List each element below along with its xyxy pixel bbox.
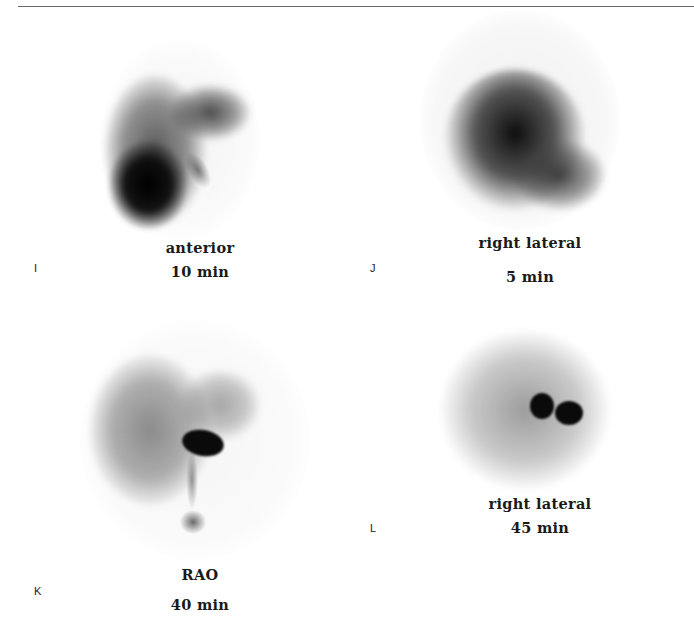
panel-letter-i: I [34,262,37,274]
panel-k: RAO 40 min K [0,300,340,624]
panel-letter-k: K [34,585,41,597]
page-header-rule [18,6,694,7]
caption-rao: RAO 40 min [140,560,260,620]
panel-letter-l: L [370,522,376,534]
caption-time: 40 min [140,590,260,620]
panel-letter-j: J [370,262,376,274]
caption-anterior: anterior 10 min [140,236,260,284]
panel-i: anterior 10 min I [0,20,340,290]
panel-l: right lateral 45 min L [340,300,694,560]
caption-view: right lateral [470,492,610,516]
caption-right-lateral-45: right lateral 45 min [470,492,610,540]
panel-j: right lateral 5 min J [340,20,694,290]
caption-time: 45 min [470,516,610,540]
caption-view: anterior [140,236,260,260]
caption-view: right lateral [460,226,600,260]
caption-right-lateral: right lateral 5 min [460,226,600,294]
caption-time: 5 min [460,260,600,294]
caption-time: 10 min [140,260,260,284]
caption-view: RAO [140,560,260,590]
